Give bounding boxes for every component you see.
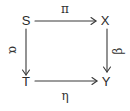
node-t: T bbox=[19, 75, 33, 88]
label-eta: η bbox=[58, 90, 72, 102]
label-pi: π bbox=[58, 3, 72, 15]
arrow-x-to-y bbox=[104, 29, 111, 72]
node-x: X bbox=[98, 14, 112, 27]
arrow-t-to-y bbox=[35, 78, 97, 85]
label-beta: β bbox=[112, 44, 124, 58]
label-alpha: α bbox=[7, 43, 19, 57]
arrow-s-to-t bbox=[23, 29, 30, 75]
node-y: Y bbox=[99, 75, 113, 88]
node-s: S bbox=[19, 14, 33, 27]
arrow-s-to-x bbox=[35, 18, 96, 25]
